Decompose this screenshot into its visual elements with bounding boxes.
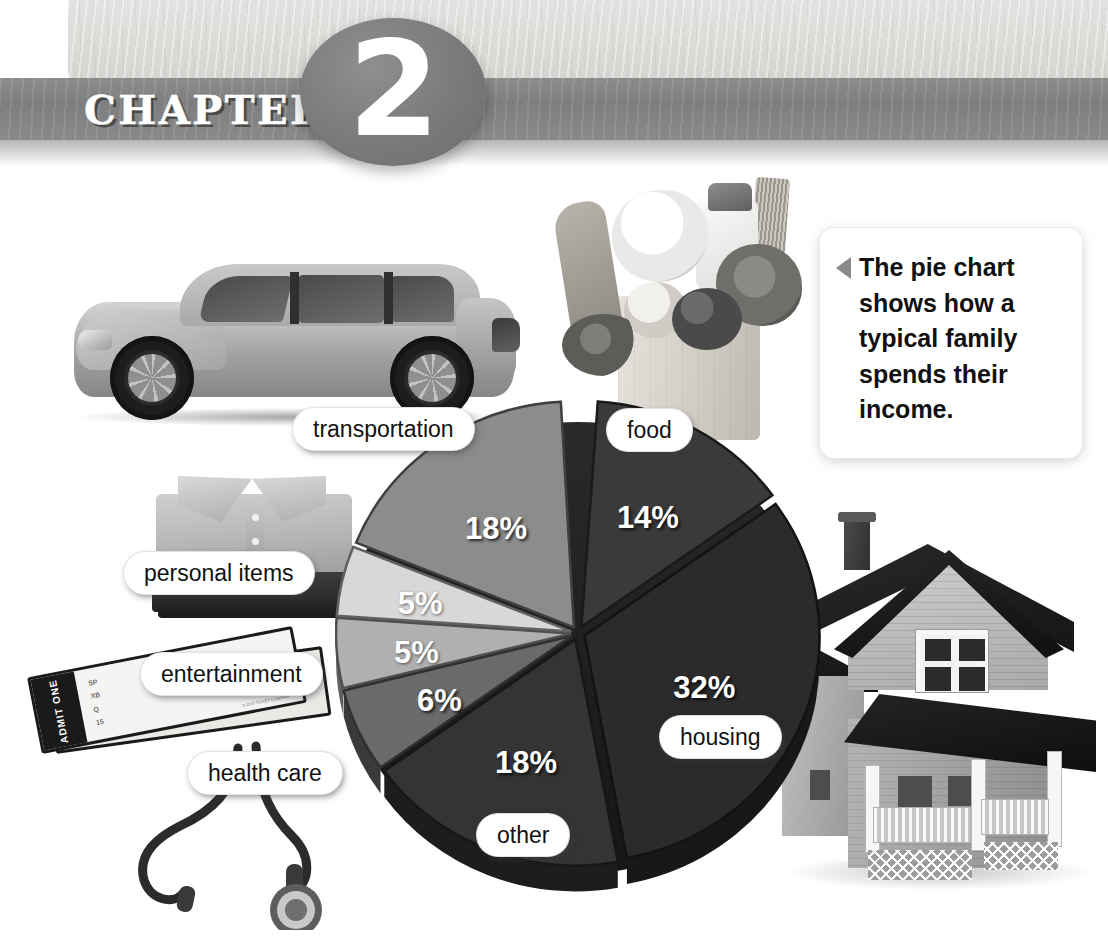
- pie-chart: 18% 14% 32% 18% 6% 5% 5%: [335, 396, 835, 896]
- chapter-label: CHAPTER: [84, 86, 326, 133]
- tomato: [672, 288, 742, 350]
- cauliflower: [612, 190, 708, 282]
- pie-label-transportation[interactable]: transportation: [293, 408, 474, 450]
- ticket-stub-text: ADMIT ONE: [47, 678, 70, 744]
- pie-value-personal-items: 5%: [398, 586, 443, 622]
- pie-label-entertainment[interactable]: entertainment: [141, 653, 322, 695]
- parsley-greens: [562, 314, 646, 376]
- house-porch-rail-2: [982, 800, 1048, 834]
- pie-label-other[interactable]: other: [477, 814, 569, 856]
- house-porch-rail-1: [874, 808, 970, 842]
- pie-label-housing[interactable]: housing: [660, 716, 781, 758]
- pie-label-personal-items[interactable]: personal items: [124, 552, 314, 594]
- ticket-stub: ADMIT ONE: [31, 671, 88, 750]
- chapter-number: 2: [348, 23, 440, 155]
- milk-cap: [708, 183, 752, 211]
- pie-value-food: 14%: [617, 500, 679, 536]
- shirt-button-top: [252, 514, 259, 521]
- car-front-wheel: [110, 336, 194, 420]
- pie-chart-callout: The pie chart shows how a typical family…: [820, 228, 1082, 458]
- pie-value-health-care: 6%: [417, 683, 462, 719]
- pie-value-entertainment: 5%: [394, 635, 439, 671]
- ticket-detail-text: SPXBQ15: [87, 675, 106, 729]
- car-rear-window: [392, 276, 454, 322]
- house-chimney-cap: [838, 512, 876, 522]
- chapter-number-badge: 2: [300, 18, 486, 166]
- pie-value-housing: 32%: [673, 670, 735, 706]
- house-lattice-2: [984, 842, 1058, 870]
- chapter-header-banner: CHAPTER 2: [0, 0, 1108, 165]
- pie-value-transportation: 18%: [465, 511, 527, 547]
- header-band-shadow: [0, 140, 1108, 166]
- house-porch-post-3: [1048, 752, 1061, 846]
- house-porch-window: [948, 776, 974, 806]
- car-headlight: [78, 330, 112, 350]
- car-taillight: [492, 318, 520, 352]
- house-chimney: [844, 518, 870, 570]
- car-b-pillar: [290, 272, 299, 324]
- car-front-window: [298, 275, 384, 323]
- pie-label-health-care[interactable]: health care: [188, 752, 342, 794]
- folded-dark-garment-2: [158, 596, 348, 618]
- house-upper-window: [916, 630, 988, 692]
- triangle-left-icon: [836, 257, 851, 279]
- pie-label-food[interactable]: food: [607, 409, 692, 451]
- house-lattice-1: [868, 850, 972, 880]
- pie-value-other: 18%: [495, 745, 557, 781]
- ticket-fine-print: © 2010 TICKET COMPANY: [242, 694, 291, 708]
- shirt-button-bottom: [252, 538, 259, 545]
- callout-text: The pie chart shows how a typical family…: [859, 250, 1064, 458]
- car-c-pillar: [384, 272, 393, 324]
